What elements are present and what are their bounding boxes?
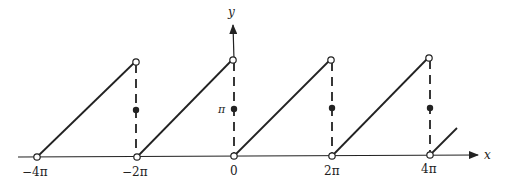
open-dot-0-bottom: [231, 153, 237, 159]
open-dot-neg4pi-bottom: [34, 154, 40, 160]
y-tick-pi: π: [217, 103, 226, 116]
y-axis-label: y: [227, 5, 235, 19]
x-tick-0: 0: [230, 164, 238, 178]
x-tick-4pi: 4π: [421, 162, 437, 176]
sawtooth-segments: [37, 58, 457, 157]
open-dot-0-top: [230, 57, 236, 63]
filled-dot-neg2pi: [133, 107, 139, 113]
segment-5: [430, 128, 457, 155]
x-axis: [18, 155, 478, 157]
filled-dot-2pi: [329, 105, 335, 111]
open-dot-neg2pi-bottom: [134, 154, 140, 160]
open-dot-4pi-bottom: [427, 152, 433, 158]
x-tick-labels: −4π −2π 0 2π 4π: [22, 162, 437, 179]
filled-dot-0: [231, 106, 237, 112]
segment-4: [332, 58, 428, 156]
x-tick-neg2pi: −2π: [122, 165, 148, 179]
y-axis: [233, 25, 234, 60]
open-dot-neg2pi-top: [133, 59, 139, 65]
open-dot-4pi-top: [426, 55, 432, 61]
open-dot-2pi-top: [328, 57, 334, 63]
sawtooth-chart: x y π −4π −2π 0: [0, 0, 505, 185]
segment-1: [37, 62, 135, 157]
segment-3: [234, 60, 330, 156]
filled-dot-4pi: [427, 105, 433, 111]
open-dot-2pi-bottom: [329, 153, 335, 159]
x-axis-label: x: [484, 148, 491, 162]
x-tick-2pi: 2π: [324, 164, 340, 178]
x-tick-neg4pi: −4π: [22, 165, 48, 179]
